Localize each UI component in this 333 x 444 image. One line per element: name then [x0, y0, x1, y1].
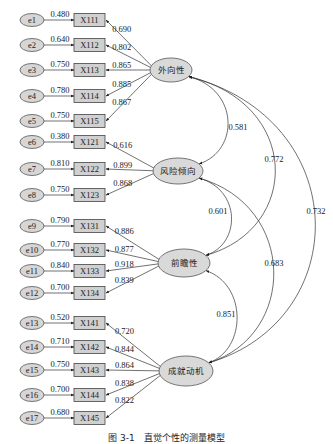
observed-variable: X114 — [74, 90, 105, 103]
loading-value: 0.616 — [113, 140, 132, 150]
observed-variable: X115 — [74, 115, 105, 128]
latent-factor: 风险倾向 — [153, 158, 203, 184]
correlation-arc — [189, 77, 275, 256]
error-label: e15 — [26, 365, 38, 375]
loading-value: 0.844 — [115, 344, 135, 354]
error-label: e6 — [28, 137, 36, 147]
indicator-row: e50.750X115 — [20, 110, 105, 128]
latent-label: 外向性 — [158, 65, 185, 75]
error-weight: 0.640 — [50, 34, 69, 44]
error-label: e9 — [28, 221, 36, 231]
indicator-row: e80.750X123 — [20, 184, 105, 202]
error-term: e12 — [20, 287, 44, 300]
error-weight: 0.780 — [50, 85, 69, 95]
observed-label: X143 — [80, 365, 99, 375]
indicator-row: e170.680X145 — [20, 407, 105, 425]
loading-value: 0.877 — [115, 244, 134, 254]
error-weight: 0.750 — [50, 110, 69, 120]
error-term: e7 — [20, 163, 44, 176]
error-label: e11 — [26, 266, 38, 276]
error-term: e1 — [20, 14, 44, 27]
loading-value: 0.867 — [112, 97, 131, 107]
indicator-row: e70.810X122 — [20, 158, 105, 176]
error-term: e6 — [20, 136, 44, 149]
indicator-row: e90.790X131 — [20, 215, 105, 233]
indicator-row: e120.700X134 — [20, 282, 105, 300]
observed-variable: X123 — [74, 189, 105, 202]
loading-value: 0.918 — [115, 259, 134, 269]
loading-value: 0.899 — [113, 160, 132, 170]
error-weight: 0.810 — [50, 158, 69, 168]
error-term: e3 — [20, 64, 44, 77]
loading-value: 0.720 — [115, 326, 134, 336]
indicator-row: e100.770X132 — [20, 239, 105, 257]
indicator-rows: e10.480X111e20.640X112e30.750X113e40.780… — [20, 9, 105, 425]
error-weight: 0.750 — [50, 184, 69, 194]
error-term: e2 — [20, 39, 44, 52]
error-label: e5 — [28, 116, 36, 126]
observed-variable: X121 — [74, 136, 105, 149]
sem-measurement-model: 0.5810.7720.7320.6010.6830.851 0.6900.80… — [0, 0, 333, 444]
observed-variable: X134 — [74, 287, 105, 300]
error-weight: 0.480 — [50, 9, 69, 19]
error-term: e4 — [20, 90, 44, 103]
correlation-arcs: 0.5810.7720.7320.6010.6830.851 — [189, 77, 326, 363]
error-weight: 0.750 — [50, 59, 69, 69]
error-label: e2 — [28, 40, 36, 50]
correlation-value: 0.772 — [264, 154, 283, 164]
observed-label: X134 — [80, 288, 100, 298]
latent-label: 成就动机 — [168, 366, 204, 376]
loading-value: 0.885 — [112, 79, 131, 89]
observed-label: X121 — [80, 137, 99, 147]
error-term: e16 — [20, 389, 44, 402]
error-term: e11 — [20, 265, 44, 278]
observed-variable: X113 — [74, 64, 105, 77]
error-weight: 0.520 — [50, 312, 69, 322]
error-weight: 0.770 — [50, 239, 69, 249]
error-label: e13 — [26, 318, 38, 328]
indicator-row: e110.840X133 — [20, 260, 105, 278]
correlation-value: 0.683 — [264, 258, 283, 268]
error-term: e15 — [20, 364, 44, 377]
observed-label: X131 — [80, 221, 99, 231]
error-weight: 0.380 — [50, 131, 69, 141]
figure-caption: 图 3-1 直觉个性的测量模型 — [0, 431, 333, 444]
error-label: e16 — [26, 390, 38, 400]
observed-label: X133 — [80, 266, 99, 276]
error-term: e10 — [20, 244, 44, 257]
observed-label: X122 — [80, 164, 99, 174]
observed-variable: X112 — [74, 39, 105, 52]
latent-label: 前瞻性 — [171, 258, 198, 268]
latent-factor: 前瞻性 — [158, 249, 210, 277]
error-label: e1 — [28, 15, 36, 25]
observed-variable: X145 — [74, 412, 105, 425]
loading-value: 0.838 — [115, 378, 134, 388]
observed-variable: X111 — [74, 14, 105, 27]
correlation-arc — [189, 77, 228, 164]
latent-factor: 外向性 — [150, 58, 192, 82]
indicator-row: e140.710X142 — [20, 336, 105, 354]
error-label: e8 — [28, 190, 36, 200]
observed-variable: X141 — [74, 317, 105, 330]
observed-label: X132 — [80, 245, 99, 255]
observed-variable: X132 — [74, 244, 105, 257]
observed-variable: X131 — [74, 220, 105, 233]
error-weight: 0.710 — [50, 336, 69, 346]
error-weight: 0.700 — [50, 384, 69, 394]
error-weight: 0.790 — [50, 215, 69, 225]
loading-value: 0.822 — [115, 395, 134, 405]
error-term: e5 — [20, 115, 44, 128]
error-label: e10 — [26, 245, 38, 255]
observed-variable: X122 — [74, 163, 105, 176]
error-term: e9 — [20, 220, 44, 233]
observed-label: X114 — [80, 91, 99, 101]
correlation-value: 0.601 — [208, 206, 227, 216]
correlation-value: 0.581 — [228, 122, 247, 132]
observed-label: X141 — [80, 318, 99, 328]
latent-factor: 成就动机 — [159, 356, 213, 386]
indicator-row: e10.480X111 — [20, 9, 105, 27]
error-term: e17 — [20, 412, 44, 425]
error-term: e14 — [20, 341, 44, 354]
latent-factors: 外向性风险倾向前瞻性成就动机 — [150, 58, 213, 386]
error-label: e4 — [28, 91, 37, 101]
